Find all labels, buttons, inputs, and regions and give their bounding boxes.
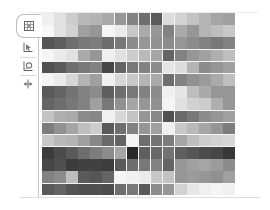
heatmap-cell[interactable] — [151, 37, 163, 49]
heatmap-cell[interactable] — [66, 25, 78, 37]
heatmap-cell[interactable] — [187, 135, 199, 147]
heatmap-cell[interactable] — [66, 37, 78, 49]
heatmap-cell[interactable] — [163, 159, 175, 171]
heatmap-cell[interactable] — [211, 111, 223, 123]
heatmap-cell[interactable] — [54, 13, 66, 25]
heatmap-cell[interactable] — [151, 74, 163, 86]
heatmap-cell[interactable] — [90, 111, 102, 123]
heatmap-cell[interactable] — [102, 135, 114, 147]
heatmap-cell[interactable] — [78, 50, 90, 62]
heatmap-cell[interactable] — [151, 135, 163, 147]
heatmap-cell[interactable] — [175, 111, 187, 123]
heatmap-cell[interactable] — [42, 171, 54, 183]
tab-chart[interactable] — [18, 39, 38, 55]
heatmap-cell[interactable] — [187, 171, 199, 183]
heatmap-cell[interactable] — [54, 171, 66, 183]
heatmap-cell[interactable] — [115, 13, 127, 25]
heatmap-cell[interactable] — [102, 37, 114, 49]
heatmap-cell[interactable] — [163, 62, 175, 74]
heatmap-cell[interactable] — [42, 111, 54, 123]
heatmap-cell[interactable] — [115, 135, 127, 147]
heatmap-cell[interactable] — [102, 159, 114, 171]
heatmap-cell[interactable] — [127, 184, 139, 196]
heatmap-cell[interactable] — [151, 171, 163, 183]
heatmap-cell[interactable] — [199, 86, 211, 98]
heatmap-cell[interactable] — [66, 171, 78, 183]
heatmap-cell[interactable] — [66, 62, 78, 74]
heatmap-cell[interactable] — [42, 62, 54, 74]
heatmap-cell[interactable] — [127, 86, 139, 98]
heatmap-cell[interactable] — [211, 123, 223, 135]
heatmap-cell[interactable] — [90, 159, 102, 171]
heatmap-cell[interactable] — [102, 74, 114, 86]
heatmap-cell[interactable] — [78, 184, 90, 196]
heatmap-cell[interactable] — [139, 171, 151, 183]
heatmap-cell[interactable] — [54, 135, 66, 147]
heatmap-cell[interactable] — [175, 37, 187, 49]
heatmap-cell[interactable] — [139, 62, 151, 74]
heatmap-cell[interactable] — [187, 37, 199, 49]
heatmap-cell[interactable] — [90, 135, 102, 147]
heatmap-cell[interactable] — [90, 13, 102, 25]
heatmap-cell[interactable] — [127, 50, 139, 62]
heatmap-cell[interactable] — [127, 159, 139, 171]
heatmap-cell[interactable] — [90, 147, 102, 159]
heatmap-cell[interactable] — [115, 74, 127, 86]
heatmap-cell[interactable] — [199, 98, 211, 110]
heatmap-cell[interactable] — [175, 74, 187, 86]
heatmap-cell[interactable] — [211, 50, 223, 62]
heatmap-cell[interactable] — [175, 184, 187, 196]
heatmap-cell[interactable] — [78, 98, 90, 110]
heatmap-cell[interactable] — [223, 123, 235, 135]
heatmap-cell[interactable] — [187, 111, 199, 123]
heatmap-cell[interactable] — [115, 184, 127, 196]
heatmap-cell[interactable] — [199, 123, 211, 135]
heatmap-cell[interactable] — [127, 25, 139, 37]
heatmap-cell[interactable] — [127, 13, 139, 25]
heatmap-cell[interactable] — [78, 135, 90, 147]
heatmap-cell[interactable] — [78, 171, 90, 183]
heatmap-cell[interactable] — [151, 184, 163, 196]
heatmap-cell[interactable] — [223, 37, 235, 49]
heatmap-cell[interactable] — [127, 74, 139, 86]
heatmap-cell[interactable] — [115, 123, 127, 135]
heatmap-cell[interactable] — [102, 123, 114, 135]
heatmap-cell[interactable] — [66, 123, 78, 135]
heatmap-cell[interactable] — [187, 25, 199, 37]
heatmap-cell[interactable] — [78, 111, 90, 123]
heatmap-cell[interactable] — [163, 86, 175, 98]
heatmap-cell[interactable] — [54, 86, 66, 98]
heatmap-cell[interactable] — [127, 62, 139, 74]
heatmap-cell[interactable] — [211, 25, 223, 37]
heatmap-cell[interactable] — [175, 50, 187, 62]
heatmap-cell[interactable] — [42, 184, 54, 196]
heatmap-cell[interactable] — [102, 184, 114, 196]
tab-image[interactable] — [18, 58, 38, 74]
heatmap-cell[interactable] — [175, 86, 187, 98]
heatmap-cell[interactable] — [175, 62, 187, 74]
heatmap-cell[interactable] — [127, 37, 139, 49]
heatmap-cell[interactable] — [223, 159, 235, 171]
tab-heatmap[interactable] — [16, 14, 41, 38]
heatmap-cell[interactable] — [163, 111, 175, 123]
heatmap-cell[interactable] — [66, 74, 78, 86]
heatmap-cell[interactable] — [151, 111, 163, 123]
heatmap-grid[interactable] — [42, 13, 235, 195]
heatmap-cell[interactable] — [42, 74, 54, 86]
heatmap-cell[interactable] — [163, 184, 175, 196]
heatmap-cell[interactable] — [127, 123, 139, 135]
heatmap-cell[interactable] — [187, 62, 199, 74]
heatmap-cell[interactable] — [223, 62, 235, 74]
heatmap-cell[interactable] — [199, 13, 211, 25]
heatmap-cell[interactable] — [102, 86, 114, 98]
heatmap-cell[interactable] — [211, 37, 223, 49]
heatmap-cell[interactable] — [78, 37, 90, 49]
heatmap-cell[interactable] — [42, 159, 54, 171]
heatmap-cell[interactable] — [90, 37, 102, 49]
heatmap-cell[interactable] — [54, 184, 66, 196]
heatmap-cell[interactable] — [151, 62, 163, 74]
heatmap-cell[interactable] — [90, 86, 102, 98]
heatmap-cell[interactable] — [102, 25, 114, 37]
heatmap-cell[interactable] — [42, 25, 54, 37]
heatmap-cell[interactable] — [163, 135, 175, 147]
